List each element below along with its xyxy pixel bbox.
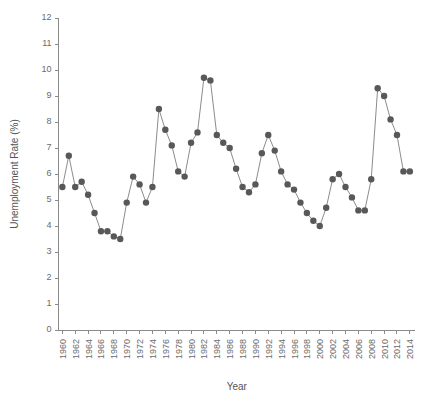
data-point (297, 199, 303, 205)
y-tick-label: 2 (46, 272, 51, 282)
x-tick-label: 2008 (367, 339, 377, 359)
x-tick-label: 1964 (84, 339, 94, 359)
x-tick-label: 1992 (264, 339, 274, 359)
data-point (194, 129, 200, 135)
y-tick-label: 6 (46, 168, 51, 178)
data-point (239, 184, 245, 190)
y-tick-label: 3 (46, 246, 51, 256)
data-point (181, 173, 187, 179)
data-point (143, 199, 149, 205)
data-point (374, 85, 380, 91)
data-point (272, 147, 278, 153)
x-tick-label: 1972 (135, 339, 145, 359)
data-point (91, 210, 97, 216)
data-point (381, 93, 387, 99)
data-point (156, 106, 162, 112)
data-point (226, 145, 232, 151)
y-tick-label: 7 (46, 142, 51, 152)
data-point (284, 181, 290, 187)
x-tick-label: 1986 (225, 339, 235, 359)
data-point (59, 184, 65, 190)
x-tick-label: 2010 (380, 339, 390, 359)
x-tick-label: 1996 (290, 339, 300, 359)
y-tick-label: 9 (46, 90, 51, 100)
data-point (85, 192, 91, 198)
data-point (246, 189, 252, 195)
x-tick-label: 1966 (96, 339, 106, 359)
data-point (394, 132, 400, 138)
data-point (355, 207, 361, 213)
data-point (310, 218, 316, 224)
data-point (265, 132, 271, 138)
data-point (72, 184, 78, 190)
data-point (117, 236, 123, 242)
x-tick-label: 2000 (315, 339, 325, 359)
chart-canvas: 0123456789101112196019621964196619681970… (0, 0, 426, 405)
data-point (323, 205, 329, 211)
x-tick-label: 2006 (354, 339, 364, 359)
data-point (252, 181, 258, 187)
data-point (201, 75, 207, 81)
x-axis-title: Year (227, 381, 248, 392)
y-tick-label: 10 (41, 64, 51, 74)
data-point (317, 223, 323, 229)
x-tick-label: 1980 (187, 339, 197, 359)
x-tick-label: 1988 (238, 339, 248, 359)
data-point (149, 184, 155, 190)
unemployment-rate-line-chart: 0123456789101112196019621964196619681970… (0, 0, 426, 405)
y-tick-label: 8 (46, 116, 51, 126)
x-tick-label: 1976 (161, 339, 171, 359)
data-point (124, 199, 130, 205)
x-tick-label: 2002 (328, 339, 338, 359)
data-point (188, 140, 194, 146)
y-tick-label: 1 (46, 298, 51, 308)
data-point (400, 168, 406, 174)
x-tick-label: 1994 (277, 339, 287, 359)
data-point (259, 150, 265, 156)
data-point (175, 168, 181, 174)
data-point (162, 127, 168, 133)
data-point (407, 168, 413, 174)
data-point (362, 207, 368, 213)
data-point (214, 132, 220, 138)
data-point (78, 179, 84, 185)
data-point (98, 228, 104, 234)
x-tick-label: 1978 (174, 339, 184, 359)
data-point (387, 116, 393, 122)
data-point (130, 173, 136, 179)
data-point (220, 140, 226, 146)
data-point (349, 194, 355, 200)
x-tick-label: 1960 (58, 339, 68, 359)
data-point (304, 210, 310, 216)
data-point (368, 176, 374, 182)
data-point (278, 168, 284, 174)
data-point (169, 142, 175, 148)
y-tick-label: 12 (41, 12, 51, 22)
y-axis-title: Unemployment Rate (%) (9, 119, 20, 228)
x-tick-label: 1970 (122, 339, 132, 359)
data-point (233, 166, 239, 172)
x-tick-label: 1998 (302, 339, 312, 359)
x-tick-label: 1962 (71, 339, 81, 359)
y-tick-label: 4 (46, 220, 51, 230)
data-point (291, 186, 297, 192)
x-tick-label: 1982 (199, 339, 209, 359)
x-tick-label: 1990 (251, 339, 261, 359)
x-tick-label: 1984 (212, 339, 222, 359)
data-point (111, 233, 117, 239)
x-tick-label: 1974 (148, 339, 158, 359)
unemployment-series-line (62, 78, 409, 239)
x-tick-label: 1968 (109, 339, 119, 359)
data-point (342, 184, 348, 190)
x-tick-label: 2004 (341, 339, 351, 359)
y-tick-label: 0 (46, 324, 51, 334)
data-point (66, 153, 72, 159)
data-point (104, 228, 110, 234)
y-tick-label: 5 (46, 194, 51, 204)
x-tick-label: 2014 (405, 339, 415, 359)
x-tick-label: 2012 (392, 339, 402, 359)
data-point (207, 77, 213, 83)
data-point (136, 181, 142, 187)
data-point (336, 171, 342, 177)
data-point (329, 176, 335, 182)
